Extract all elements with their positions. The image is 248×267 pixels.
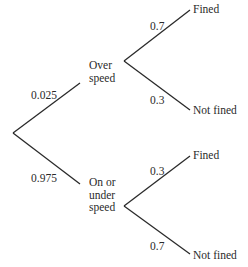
- outcome-over-speed-not-fined: Not fined: [193, 104, 237, 116]
- branch-under-speed-fined: [124, 156, 190, 206]
- probability-over-speed-not-fined: 0.3: [150, 94, 164, 106]
- node-under-speed-line-1: On or: [89, 176, 116, 189]
- tree-branches: [0, 0, 248, 267]
- node-on-or-under-speed: On or under speed: [89, 176, 116, 214]
- node-over-speed: Over speed: [89, 59, 115, 84]
- node-under-speed-line-2: under: [89, 189, 116, 202]
- probability-under-speed-fined: 0.3: [150, 165, 164, 177]
- node-over-speed-line-1: Over: [89, 59, 115, 72]
- probability-under-speed-not-fined: 0.7: [150, 240, 164, 252]
- outcome-over-speed-fined: Fined: [193, 3, 219, 15]
- probability-on-or-under-speed: 0.975: [31, 172, 57, 184]
- branch-over-speed-fined: [124, 10, 190, 61]
- probability-over-speed-fined: 0.7: [150, 20, 164, 32]
- probability-over-speed: 0.025: [31, 89, 57, 101]
- outcome-under-speed-fined: Fined: [193, 149, 219, 161]
- node-under-speed-line-3: speed: [89, 201, 116, 214]
- outcome-under-speed-not-fined: Not fined: [193, 249, 237, 261]
- node-over-speed-line-2: speed: [89, 72, 115, 85]
- probability-tree-diagram: 0.025 0.975 Over speed On or under speed…: [0, 0, 248, 267]
